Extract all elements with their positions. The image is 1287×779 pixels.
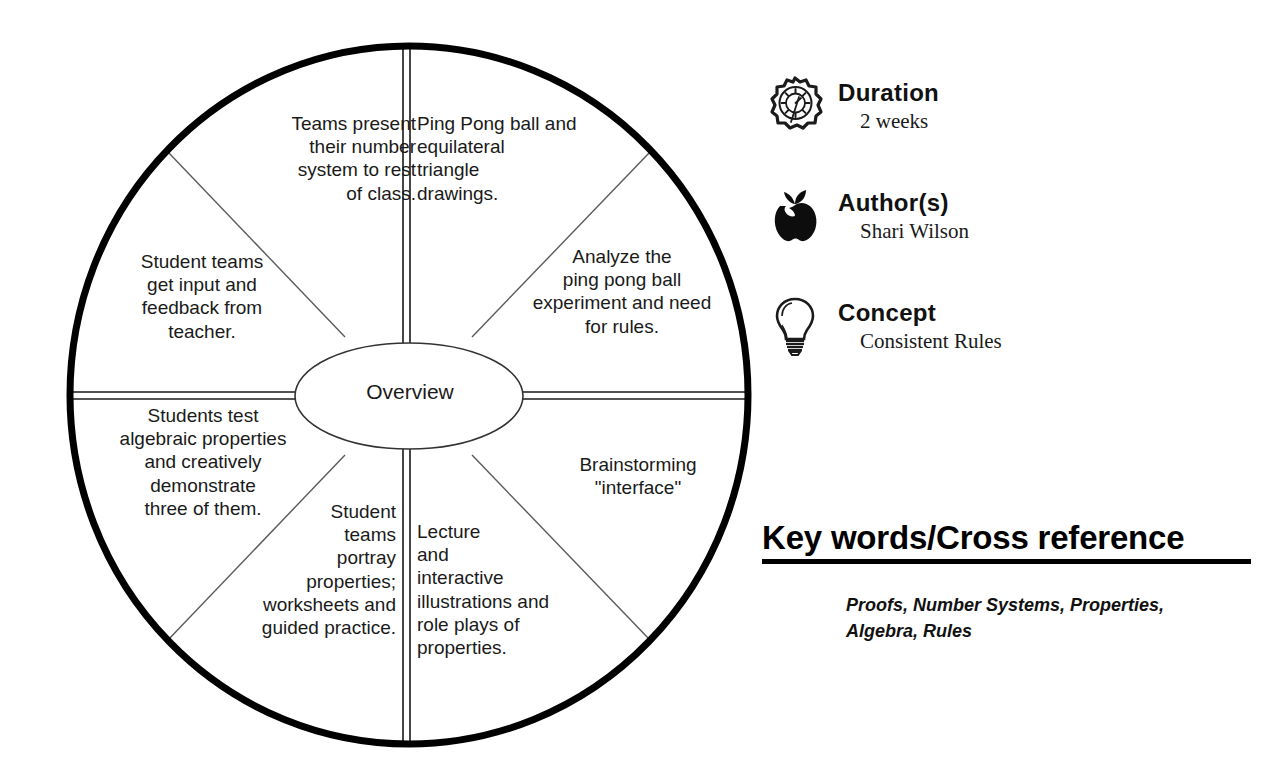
segment-ping-pong-ball: Ping Pong ball and equilateral triangle … (417, 112, 627, 205)
meta-body-duration: Duration 2 weeks (828, 72, 939, 134)
clock-icon (762, 72, 828, 132)
meta-row-author: Author(s) Shari Wilson (762, 182, 1262, 256)
segment-teams-present: Teams present their number system to res… (216, 112, 416, 205)
meta-title-duration: Duration (838, 80, 939, 106)
meta-row-duration: Duration 2 weeks (762, 72, 1262, 146)
meta-body-author: Author(s) Shari Wilson (828, 182, 969, 244)
segment-student-teams-input: Student teams get input and feedback fro… (94, 250, 310, 343)
apple-icon (762, 182, 828, 246)
meta-value-author: Shari Wilson (838, 216, 969, 244)
lightbulb-icon (762, 292, 828, 356)
meta-title-concept: Concept (838, 300, 1002, 326)
meta-value-concept: Consistent Rules (838, 326, 1002, 354)
segment-student-teams-portray: Student teams portray properties; worksh… (216, 500, 396, 639)
segment-students-test-algebraic: Students test algebraic properties and c… (78, 404, 328, 520)
keywords-underline-rule (762, 559, 1251, 564)
segment-lecture-interactive: Lecture and interactive illustrations an… (417, 520, 617, 659)
segment-brainstorming: Brainstorming "interface" (543, 453, 733, 499)
keywords-section: Key words/Cross reference Proofs, Number… (762, 520, 1262, 644)
keywords-list: Proofs, Number Systems, Properties, Alge… (846, 592, 1176, 644)
meta-value-duration: 2 weeks (838, 106, 939, 134)
keywords-heading: Key words/Cross reference (762, 520, 1262, 556)
lesson-overview-page: Overview Teams present their number syst… (0, 0, 1287, 779)
meta-body-concept: Concept Consistent Rules (828, 292, 1002, 354)
meta-title-author: Author(s) (838, 190, 969, 216)
metadata-panel: Duration 2 weeks Author(s) Shari Wilson (762, 72, 1262, 402)
center-overview-label: Overview (300, 380, 520, 404)
meta-row-concept: Concept Consistent Rules (762, 292, 1262, 366)
segment-analyze-ping-pong: Analyze the ping pong ball experiment an… (502, 245, 742, 338)
